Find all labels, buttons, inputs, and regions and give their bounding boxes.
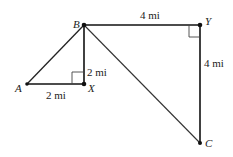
right-angle-marker-y (189, 25, 200, 37)
point-a (25, 82, 29, 86)
segment-bc (84, 25, 200, 143)
label-point-a: A (14, 82, 22, 94)
point-x (82, 82, 87, 87)
point-b (82, 23, 87, 28)
length-label-by: 4 mi (140, 9, 160, 21)
point-y (198, 23, 203, 28)
label-point-y: Y (205, 15, 213, 27)
length-label-ax: 2 mi (46, 89, 66, 101)
label-point-x: X (87, 82, 96, 94)
right-angle-marker-x (72, 72, 84, 84)
segment-ab (27, 25, 84, 84)
length-label-yc: 4 mi (204, 57, 224, 69)
length-label-bx: 2 mi (87, 66, 107, 78)
label-point-c: C (205, 137, 213, 149)
label-point-b: B (73, 18, 80, 30)
point-c (198, 141, 202, 145)
geometry-diagram: A B X Y C 2 mi 2 mi 4 mi 4 mi (0, 0, 233, 157)
